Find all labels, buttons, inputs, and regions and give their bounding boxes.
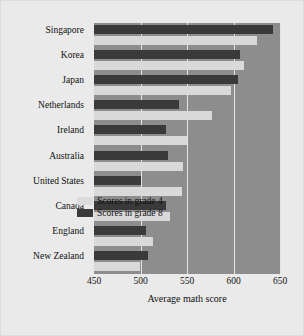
bar-grade-8 <box>94 50 240 59</box>
x-tick-600: 600 <box>226 276 240 286</box>
x-axis-tick-labels: 450500550600650 <box>94 276 280 290</box>
y-axis-label-united-states: United States <box>33 176 84 186</box>
bar-group <box>94 75 280 100</box>
bar-group <box>94 251 280 276</box>
bar-grade-8 <box>94 125 166 134</box>
y-axis-label-australia: Australia <box>49 151 84 161</box>
y-axis-category-labels: SingaporeKoreaJapanNetherlandsIrelandAus… <box>1 23 89 274</box>
bar-group <box>94 151 280 176</box>
bar-group <box>94 100 280 125</box>
legend-label: Scores in grade 4 <box>97 196 163 206</box>
bar-group <box>94 50 280 75</box>
bar-group <box>94 226 280 251</box>
legend-item: Scores in grade 4 <box>77 195 187 206</box>
y-axis-label-england: England <box>52 226 84 236</box>
bar-group <box>94 125 280 150</box>
bar-grade-4 <box>94 86 231 95</box>
bar-grade-4 <box>94 237 153 246</box>
bar-grade-4 <box>94 61 244 70</box>
x-tick-450: 450 <box>87 276 101 286</box>
bar-grade-8 <box>94 151 168 160</box>
bar-grade-4 <box>94 111 212 120</box>
y-axis-label-korea: Korea <box>61 50 84 60</box>
gridline <box>280 23 281 274</box>
y-axis-label-japan: Japan <box>62 75 84 85</box>
bar-grade-8 <box>94 100 179 109</box>
x-tick-550: 550 <box>180 276 194 286</box>
y-axis-label-singapore: Singapore <box>45 25 84 35</box>
y-axis-label-netherlands: Netherlands <box>38 100 84 110</box>
bar-grade-4 <box>94 162 183 171</box>
legend-item: Scores in grade 8 <box>77 207 187 218</box>
bar-grade-8 <box>94 75 238 84</box>
x-tick-650: 650 <box>273 276 287 286</box>
plot-area <box>94 23 280 274</box>
bar-grade-8 <box>94 176 141 185</box>
bar-grade-4 <box>94 136 187 145</box>
x-tick-500: 500 <box>133 276 147 286</box>
bar-grade-8 <box>94 226 146 235</box>
legend-swatch-icon <box>77 197 93 205</box>
bar-group <box>94 25 280 50</box>
bar-grade-8 <box>94 251 148 260</box>
chart-legend: Scores in grade 4Scores in grade 8 <box>77 195 187 219</box>
chart-figure: SingaporeKoreaJapanNetherlandsIrelandAus… <box>0 0 304 336</box>
bar-grade-4 <box>94 262 140 271</box>
legend-swatch-icon <box>77 209 93 217</box>
legend-label: Scores in grade 8 <box>97 208 163 218</box>
x-axis-title: Average math score <box>94 293 280 304</box>
y-axis-label-new-zealand: New Zealand <box>33 251 84 261</box>
bar-grade-4 <box>94 36 257 45</box>
y-axis-label-ireland: Ireland <box>57 125 84 135</box>
bar-grade-8 <box>94 25 273 34</box>
